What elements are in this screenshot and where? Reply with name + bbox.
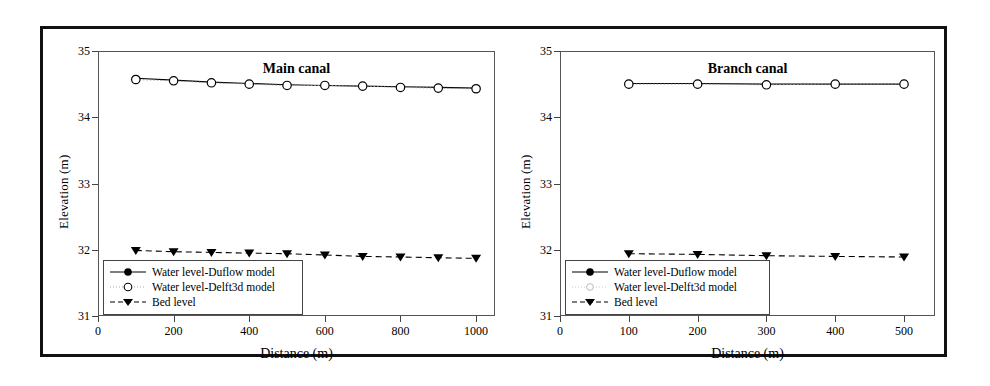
x-tick-mark xyxy=(400,316,401,322)
legend-item-delft3d: Water level-Delft3d model xyxy=(108,280,296,295)
x-tick-mark xyxy=(835,316,836,322)
data-point-marker xyxy=(471,255,481,263)
legend-item-bed: Bed level xyxy=(108,295,296,310)
legend-symbol-duflow-icon xyxy=(108,265,148,279)
y-tick-label: 34 xyxy=(64,111,90,123)
x-tick-label: 200 xyxy=(678,325,718,337)
legend-symbol-bed-icon xyxy=(108,295,148,309)
legend-symbol-delft3d-icon xyxy=(108,280,148,294)
y-tick-label: 32 xyxy=(526,244,552,256)
data-point-marker xyxy=(693,80,701,88)
x-tick-mark xyxy=(249,316,250,322)
y-tick-mark xyxy=(92,250,98,251)
x-tick-label: 200 xyxy=(154,325,194,337)
series-line xyxy=(136,250,476,258)
data-point-marker xyxy=(433,254,443,262)
data-point-marker xyxy=(434,84,442,92)
data-point-marker xyxy=(244,250,254,258)
data-point-marker xyxy=(206,249,216,257)
x-axis-label-main: Distance (m) xyxy=(98,346,495,362)
chart-panel-branch-canal: Elevation (m) Branch canal Distance (m) … xyxy=(508,29,950,360)
x-tick-label: 0 xyxy=(78,325,118,337)
x-tick-mark xyxy=(325,316,326,322)
data-point-marker xyxy=(899,254,909,262)
legend-item-delft3d: Water level-Delft3d model xyxy=(570,280,763,295)
x-tick-label: 600 xyxy=(305,325,345,337)
x-tick-label: 100 xyxy=(609,325,649,337)
data-point-marker xyxy=(625,80,633,88)
y-tick-mark xyxy=(554,250,560,251)
y-tick-label: 34 xyxy=(526,111,552,123)
x-tick-mark xyxy=(98,316,99,322)
legend-label-bed: Bed level xyxy=(148,296,196,308)
y-tick-label: 35 xyxy=(64,45,90,57)
legend-label-bed: Bed level xyxy=(610,296,658,308)
y-tick-label: 32 xyxy=(64,244,90,256)
x-tick-label: 400 xyxy=(815,325,855,337)
x-tick-label: 800 xyxy=(380,325,420,337)
x-axis-label-branch: Distance (m) xyxy=(560,346,935,362)
y-tick-label: 31 xyxy=(64,310,90,322)
legend-symbol-delft3d-icon xyxy=(570,280,610,294)
data-point-marker xyxy=(762,81,770,89)
y-tick-label: 33 xyxy=(526,178,552,190)
data-point-marker xyxy=(358,82,366,90)
legend-label-duflow: Water level-Duflow model xyxy=(148,266,275,278)
legend-branch: Water level-Duflow model Water level-Del… xyxy=(565,260,770,315)
x-tick-label: 400 xyxy=(229,325,269,337)
data-point-marker xyxy=(132,75,140,83)
chart-panel-main-canal: Elevation (m) Main canal Distance (m) Wa… xyxy=(43,29,508,360)
data-point-marker xyxy=(395,254,405,262)
y-tick-mark xyxy=(92,184,98,185)
y-tick-label: 33 xyxy=(64,178,90,190)
x-tick-mark xyxy=(560,316,561,322)
data-point-marker xyxy=(900,80,908,88)
legend-item-duflow: Water level-Duflow model xyxy=(570,265,763,280)
series-line xyxy=(136,78,476,88)
x-tick-mark xyxy=(174,316,175,322)
x-tick-label: 0 xyxy=(540,325,580,337)
x-tick-mark xyxy=(629,316,630,322)
x-tick-mark xyxy=(766,316,767,322)
y-tick-mark xyxy=(554,51,560,52)
data-point-marker xyxy=(169,77,177,85)
x-tick-label: 300 xyxy=(746,325,786,337)
data-point-marker xyxy=(321,81,329,89)
legend-main: Water level-Duflow model Water level-Del… xyxy=(103,260,303,315)
data-point-marker xyxy=(396,83,404,91)
data-point-marker xyxy=(245,80,253,88)
legend-symbol-duflow-icon xyxy=(570,265,610,279)
legend-symbol-bed-icon xyxy=(570,295,610,309)
legend-item-bed: Bed level xyxy=(570,295,763,310)
x-tick-mark xyxy=(698,316,699,322)
y-tick-label: 31 xyxy=(526,310,552,322)
y-tick-label: 35 xyxy=(526,45,552,57)
data-point-marker xyxy=(831,80,839,88)
legend-label-duflow: Water level-Duflow model xyxy=(610,266,737,278)
legend-item-duflow: Water level-Duflow model xyxy=(108,265,296,280)
data-point-marker xyxy=(207,79,215,87)
legend-label-delft3d: Water level-Delft3d model xyxy=(610,281,737,293)
x-tick-label: 1000 xyxy=(456,325,496,337)
x-tick-label: 500 xyxy=(884,325,924,337)
y-tick-mark xyxy=(554,184,560,185)
data-point-marker xyxy=(472,85,480,93)
y-tick-mark xyxy=(92,51,98,52)
y-tick-mark xyxy=(554,117,560,118)
data-point-marker xyxy=(283,81,291,89)
y-tick-mark xyxy=(92,117,98,118)
x-tick-mark xyxy=(904,316,905,322)
legend-label-delft3d: Water level-Delft3d model xyxy=(148,281,275,293)
figure-border: Elevation (m) Main canal Distance (m) Wa… xyxy=(40,26,947,357)
x-tick-mark xyxy=(476,316,477,322)
